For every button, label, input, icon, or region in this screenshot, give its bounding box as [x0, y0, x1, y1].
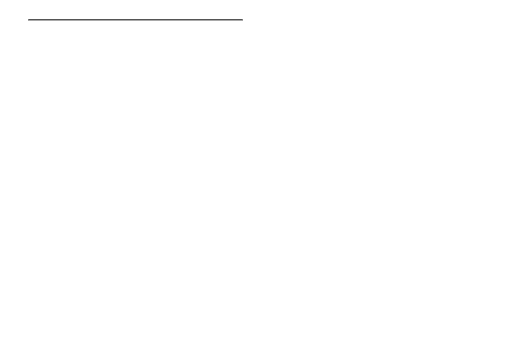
chart-outer-border	[29, 20, 243, 154]
outer-figure-border	[29, 20, 243, 154]
border-box	[29, 20, 243, 154]
outer-frame-rect	[29, 20, 243, 154]
panel-frame	[29, 20, 243, 154]
chart-figure	[0, 0, 528, 345]
figure-outer-frame	[29, 20, 243, 154]
figure-frame	[29, 20, 243, 154]
outer-figure-frame	[29, 20, 243, 154]
chart-frame	[29, 20, 243, 154]
outer-box-frame	[29, 20, 243, 154]
figure-border	[29, 20, 243, 154]
outer-border	[29, 20, 243, 154]
figure-outline	[29, 20, 244, 154]
full-frame	[29, 20, 244, 155]
outer-box	[29, 20, 243, 154]
figure-outer-box	[29, 20, 244, 154]
canvas-frame	[29, 20, 244, 155]
figure-box	[29, 20, 243, 154]
page-frame	[29, 20, 244, 155]
outer-frame	[29, 20, 243, 154]
outer-rectangle	[29, 20, 243, 154]
figure-border-rect	[29, 20, 243, 154]
figure-outer-border	[29, 20, 244, 154]
frame	[29, 20, 243, 154]
image-frame	[29, 20, 244, 155]
